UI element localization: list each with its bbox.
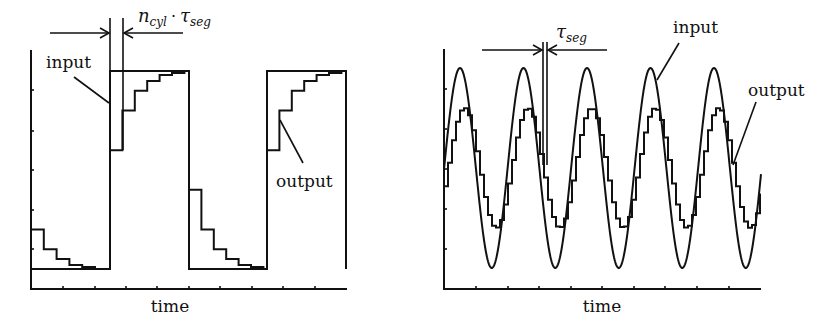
sine-wave-panel: τseg input output time: [444, 17, 805, 316]
right-output-leader: [733, 102, 756, 165]
figure: ncyl·τseg input output time τseg input o…: [0, 0, 836, 330]
right-input-curve: [444, 68, 761, 268]
right-output-label: output: [748, 80, 805, 100]
right-input-leader: [657, 43, 679, 80]
square-wave-panel: ncyl·τseg input output time: [31, 5, 347, 316]
left-input-leader: [74, 77, 109, 103]
right-input-label: input: [673, 17, 718, 37]
left-input-label: input: [46, 52, 91, 72]
annotation-tauseg: τseg: [556, 21, 587, 45]
left-output-label: output: [276, 171, 333, 191]
left-output-leader: [280, 120, 303, 163]
right-x-axis-label: time: [583, 296, 621, 316]
annotation-ncyl-tauseg: ncyl·τseg: [138, 5, 211, 29]
left-x-axis-label: time: [151, 296, 189, 316]
